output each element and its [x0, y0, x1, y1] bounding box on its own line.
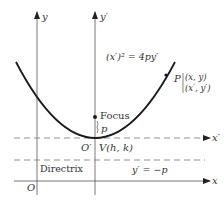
- point-p: P (x, y) (x′, y′): [164, 72, 210, 93]
- point-p-coords-prime: (x′, y′): [185, 83, 211, 93]
- point-p-label: P: [173, 73, 181, 84]
- distance-p-label: p: [101, 123, 108, 134]
- vertex-label: V(h, k): [99, 142, 133, 153]
- x-axis: x O: [14, 175, 218, 193]
- directrix-label: Directrix: [40, 163, 84, 174]
- distance-brace: [97, 121, 98, 133]
- directrix: Directrix y′ = −p: [14, 160, 205, 175]
- origin-prime-label: O′: [81, 142, 92, 153]
- y-prime-axis-label: y′: [99, 11, 109, 22]
- parabola-diagram: y y′ x O x′ O′ Directrix y′ = −p (x′)² =…: [0, 0, 224, 205]
- y-prime-axis: y′: [95, 11, 109, 195]
- origin-label: O: [27, 182, 35, 193]
- x-prime-axis-label: x′: [212, 132, 221, 143]
- focus-label: Focus: [100, 110, 130, 121]
- parabola-curve: [16, 62, 175, 138]
- focus: Focus p: [93, 110, 130, 134]
- point-p-dot: [164, 73, 167, 76]
- parabola-equation: (x′)² = 4py′: [106, 51, 159, 62]
- focus-point: [93, 115, 97, 119]
- directrix-equation: y′ = −p: [131, 164, 168, 175]
- y-axis-label: y: [41, 11, 48, 22]
- point-p-coords-xy: (x, y): [185, 72, 207, 82]
- x-axis-label: x: [212, 175, 218, 186]
